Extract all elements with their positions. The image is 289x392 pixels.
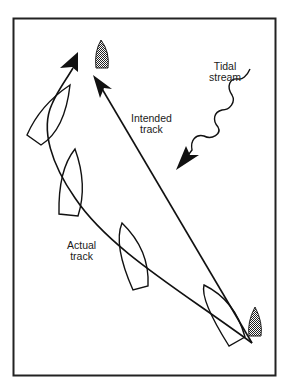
boat-outline-2 <box>59 149 82 216</box>
intended-track-label-line2: track <box>131 124 172 135</box>
boat-outline-4 <box>204 285 245 346</box>
destination-marker-icon <box>96 40 109 68</box>
tidal-stream-label-line2: stream <box>209 72 241 83</box>
boat-outline-3 <box>119 223 148 290</box>
tidal-drift-diagram <box>0 0 289 392</box>
tidal-stream-arrowhead-icon <box>176 146 199 170</box>
intended-track-label: Intended track <box>131 113 172 135</box>
tidal-stream-label: Tidal stream <box>209 61 241 83</box>
actual-track-arrowhead-icon <box>60 52 78 72</box>
actual-track-line <box>47 68 252 343</box>
intended-track-arrowhead-icon <box>93 75 112 98</box>
start-marker-icon <box>249 307 262 336</box>
actual-track-label-line2: track <box>67 251 96 262</box>
actual-track-label: Actual track <box>67 240 96 262</box>
